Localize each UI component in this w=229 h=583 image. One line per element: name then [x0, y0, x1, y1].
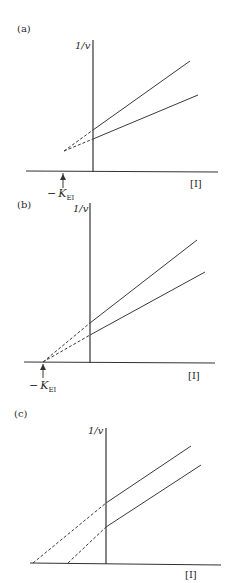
panel-c-x-axis-label: [I]	[185, 569, 197, 580]
upper-line-extrapolation	[33, 503, 106, 563]
panel-a: (a) 1/v [I] −KEI	[0, 0, 229, 195]
x-axis	[26, 171, 218, 172]
lower-line	[106, 465, 201, 527]
lower-line-extrapolation	[68, 527, 106, 563]
arrow-up-icon	[40, 364, 46, 370]
lower-line	[93, 95, 198, 139]
x-axis	[24, 362, 215, 363]
lower-line-extrapolation	[43, 335, 90, 362]
upper-line-extrapolation	[43, 323, 90, 362]
upper-line	[90, 240, 197, 323]
panel-a-plot	[0, 0, 229, 195]
panel-a-x-axis-label: [I]	[190, 178, 202, 189]
panel-b-x-axis-label: [I]	[188, 370, 200, 381]
panel-c-plot	[0, 390, 229, 583]
upper-line	[106, 446, 191, 503]
panel-b: (b) 1/v [I] −KEI	[0, 195, 229, 390]
lower-line	[90, 272, 205, 335]
x-axis	[30, 563, 221, 565]
upper-line	[93, 61, 190, 130]
panel-b-plot	[0, 195, 229, 390]
arrow-up-icon	[60, 174, 66, 180]
panel-c: (c) 1/v [I]	[0, 390, 229, 583]
